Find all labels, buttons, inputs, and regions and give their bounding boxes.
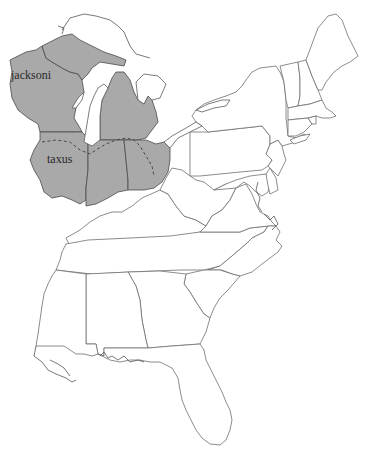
- state-louisiana-edge: [34, 346, 76, 382]
- canada-shore: [58, 26, 64, 34]
- label-taxus: taxus: [47, 152, 72, 167]
- range-map: [0, 0, 372, 455]
- state-connecticut: [288, 118, 312, 136]
- state-maine: [306, 14, 358, 90]
- state-indiana: [86, 140, 128, 206]
- lake-huron: [136, 74, 166, 104]
- label-jacksoni: jacksoni: [11, 68, 51, 83]
- state-ohio: [124, 140, 170, 190]
- delta-coast: [50, 360, 70, 376]
- state-pennsylvania: [190, 126, 272, 176]
- state-florida: [98, 344, 232, 445]
- state-illinois: [30, 132, 88, 204]
